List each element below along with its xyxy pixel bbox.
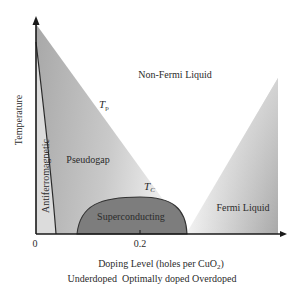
- phase-diagram: 0 0.2 Temperature Doping Level (holes pe…: [0, 0, 298, 291]
- doping-regimes-label: Underdoped Optimally doped Overdoped: [68, 273, 237, 284]
- pseudogap-label: Pseudogap: [66, 154, 109, 165]
- x-tick-label-0.2: 0.2: [134, 238, 147, 249]
- superconducting-label: Superconducting: [97, 211, 165, 222]
- antiferromagnetic-label: Antiferromagnetic: [40, 139, 51, 213]
- y-axis-arrow-icon: [33, 16, 40, 25]
- tp-label: Tp: [99, 98, 109, 112]
- non-fermi-liquid-label: Non-Fermi Liquid: [138, 69, 212, 80]
- x-axis-label: Doping Level (holes per CuO2): [98, 258, 224, 271]
- x-axis-arrow-icon: [280, 231, 287, 237]
- tc-label: TC: [144, 180, 155, 194]
- fermi-liquid-label: Fermi Liquid: [216, 202, 269, 213]
- y-axis-label: Temperature: [13, 94, 24, 145]
- x-tick-label-0: 0: [33, 238, 38, 249]
